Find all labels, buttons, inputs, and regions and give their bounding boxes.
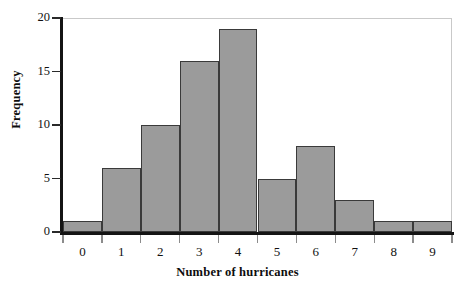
x-axis-tick <box>101 235 102 243</box>
bar <box>102 168 141 232</box>
histogram-figure: 05101520 0123456789 Frequency Number of … <box>0 0 475 291</box>
bar <box>413 221 452 232</box>
x-axis-tick <box>296 235 297 243</box>
y-axis-tick <box>52 231 61 233</box>
x-axis-title: Number of hurricanes <box>0 265 475 280</box>
x-axis-tick <box>451 235 452 243</box>
x-axis-tick <box>62 235 63 243</box>
x-axis-tick-label: 2 <box>145 245 175 259</box>
bar <box>141 125 180 232</box>
x-axis-tick-label: 9 <box>418 245 448 259</box>
y-axis-tick-label: 5 <box>10 172 50 185</box>
x-axis-tick-label: 4 <box>223 245 253 259</box>
y-axis-tick <box>52 178 61 180</box>
bar <box>374 221 413 232</box>
x-axis-tick <box>335 235 336 243</box>
bar <box>219 29 258 232</box>
y-axis-tick <box>52 71 61 73</box>
x-axis-tick-label: 1 <box>106 245 136 259</box>
x-axis-tick-label: 7 <box>340 245 370 259</box>
y-axis-tick-label: 0 <box>10 225 50 238</box>
y-axis-title: Frequency <box>9 40 24 160</box>
y-axis-tick <box>52 124 61 126</box>
x-axis-tick-label: 5 <box>262 245 292 259</box>
bar <box>63 221 102 232</box>
x-axis-tick-label: 3 <box>184 245 214 259</box>
x-axis-tick <box>374 235 375 243</box>
bar <box>180 61 219 232</box>
x-axis-tick-label: 0 <box>67 245 97 259</box>
x-axis-tick <box>218 235 219 243</box>
bars-layer <box>63 18 452 232</box>
y-axis-tick <box>52 17 61 19</box>
x-axis-tick-label: 6 <box>301 245 331 259</box>
x-axis-tick-label: 8 <box>379 245 409 259</box>
x-axis-tick <box>140 235 141 243</box>
bar <box>296 146 335 232</box>
x-axis-tick <box>412 235 413 243</box>
bar <box>335 200 374 232</box>
bar <box>258 179 297 233</box>
x-axis-tick <box>257 235 258 243</box>
x-axis-tick <box>179 235 180 243</box>
y-axis-tick-label: 20 <box>10 11 50 24</box>
